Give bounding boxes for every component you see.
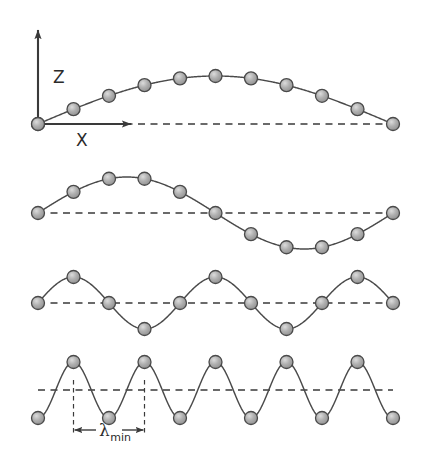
atom-marker (174, 72, 187, 85)
atom-marker (174, 185, 187, 198)
lattice-wave-figure: Z X λmin (0, 0, 425, 450)
atom-marker (316, 412, 329, 425)
atom-marker (351, 228, 364, 241)
atom-marker (280, 323, 293, 336)
atom-marker (245, 228, 258, 241)
atom-marker (209, 271, 222, 284)
atom-marker (138, 172, 151, 185)
atom-marker (387, 297, 400, 310)
atom-marker (280, 79, 293, 92)
atom-marker (280, 356, 293, 369)
atom-marker (351, 103, 364, 116)
atom-marker (245, 412, 258, 425)
lambda-symbol: λ (99, 420, 110, 440)
atom-marker (209, 207, 222, 220)
origin-atom-marker (32, 118, 45, 131)
atom-marker (67, 356, 80, 369)
atom-marker (174, 412, 187, 425)
atom-marker (387, 207, 400, 220)
atom-marker (103, 297, 116, 310)
atom-marker (209, 70, 222, 83)
x-axis-label: X (76, 130, 88, 150)
atom-marker (316, 89, 329, 102)
atom-marker (351, 271, 364, 284)
atom-marker (67, 103, 80, 116)
atom-marker (245, 297, 258, 310)
atom-marker (280, 241, 293, 254)
atom-marker (67, 271, 80, 284)
atom-marker (32, 412, 45, 425)
lambda-subscript: min (110, 431, 131, 444)
atom-marker (387, 118, 400, 131)
atom-marker (387, 412, 400, 425)
atom-marker (174, 297, 187, 310)
atom-marker (245, 72, 258, 85)
atom-marker (209, 356, 222, 369)
atom-marker (138, 79, 151, 92)
z-axis-label: Z (53, 67, 65, 87)
atom-marker (138, 356, 151, 369)
atom-marker (103, 172, 116, 185)
atom-marker (32, 207, 45, 220)
figure-canvas: Z X λmin (0, 0, 425, 450)
atom-marker (103, 89, 116, 102)
atom-marker (32, 297, 45, 310)
atom-marker (316, 241, 329, 254)
atom-marker (138, 323, 151, 336)
atom-marker (351, 356, 364, 369)
atom-marker (316, 297, 329, 310)
atom-marker (67, 185, 80, 198)
